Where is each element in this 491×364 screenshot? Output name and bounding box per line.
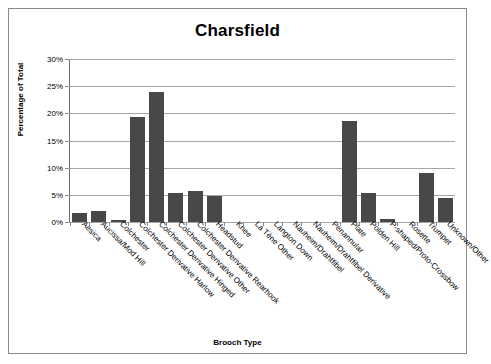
- bar-slot: [417, 59, 436, 222]
- plot-area: 0%5%10%15%20%25%30%: [69, 59, 455, 222]
- bar-slot: [378, 59, 397, 222]
- y-tick-mark: [65, 168, 69, 169]
- y-tick-label: 0%: [51, 218, 63, 227]
- chart-title: Charsfield: [9, 21, 466, 41]
- y-tick-mark: [65, 59, 69, 60]
- bar[interactable]: [149, 92, 164, 222]
- bar-slot: [436, 59, 455, 222]
- bar[interactable]: [130, 117, 145, 222]
- y-tick-mark: [65, 86, 69, 87]
- bar-slot: [205, 59, 224, 222]
- bar-slot: [340, 59, 359, 222]
- bar[interactable]: [168, 193, 183, 222]
- bar-slot: [109, 59, 128, 222]
- bar-slot: [301, 59, 320, 222]
- x-axis-labels: AesicaAucissa/Mod HillColchesterColchest…: [70, 226, 456, 336]
- y-tick-label: 20%: [47, 109, 63, 118]
- y-tick-mark: [65, 141, 69, 142]
- bar[interactable]: [207, 196, 222, 222]
- bar-slot: [243, 59, 262, 222]
- y-tick-mark: [65, 195, 69, 196]
- bar[interactable]: [419, 173, 434, 222]
- bar-series: [70, 59, 455, 222]
- y-tick-label: 10%: [47, 163, 63, 172]
- bar[interactable]: [361, 193, 376, 222]
- bar[interactable]: [188, 191, 203, 223]
- bar[interactable]: [342, 121, 357, 222]
- bar-slot: [147, 59, 166, 222]
- bar-slot: [186, 59, 205, 222]
- bar-slot: [166, 59, 185, 222]
- x-axis-title: Brooch Type: [9, 338, 466, 347]
- y-tick-mark: [65, 113, 69, 114]
- bar-slot: [320, 59, 339, 222]
- x-tick-label: Unknown/Other: [445, 220, 490, 265]
- y-tick-label: 30%: [47, 55, 63, 64]
- bar-slot: [128, 59, 147, 222]
- bar-slot: [359, 59, 378, 222]
- bar-slot: [282, 59, 301, 222]
- y-tick-label: 25%: [47, 82, 63, 91]
- bar-slot: [263, 59, 282, 222]
- y-axis-title: Percentage of Total: [16, 35, 25, 165]
- chart-container: Charsfield Percentage of Total 0%5%10%15…: [8, 8, 467, 354]
- y-tick-mark: [65, 222, 69, 223]
- x-tick-label: Aesica: [80, 220, 103, 243]
- bar-slot: [397, 59, 416, 222]
- bar-slot: [89, 59, 108, 222]
- y-tick-label: 15%: [47, 136, 63, 145]
- bar-slot: [224, 59, 243, 222]
- y-tick-label: 5%: [51, 190, 63, 199]
- bar-slot: [70, 59, 89, 222]
